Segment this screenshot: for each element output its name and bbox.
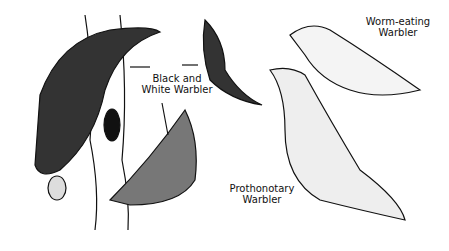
label-line: Black and xyxy=(137,73,217,84)
black-and-white-warbler-lower xyxy=(110,110,196,205)
label-line: Warbler xyxy=(358,27,438,38)
egg xyxy=(48,176,66,200)
label-line: Warbler xyxy=(222,194,302,205)
label-worm-eating-warbler: Worm-eating Warbler xyxy=(358,16,438,38)
label-line: Prothonotary xyxy=(222,183,302,194)
label-line: Worm-eating xyxy=(358,16,438,27)
warbler-illustration: Black and White Warbler Worm-eating Warb… xyxy=(0,0,449,251)
label-black-and-white-warbler: Black and White Warbler xyxy=(137,73,217,95)
black-and-white-warbler-climbing xyxy=(35,28,160,174)
label-prothonotary-warbler: Prothonotary Warbler xyxy=(222,183,302,205)
label-line: White Warbler xyxy=(137,84,217,95)
